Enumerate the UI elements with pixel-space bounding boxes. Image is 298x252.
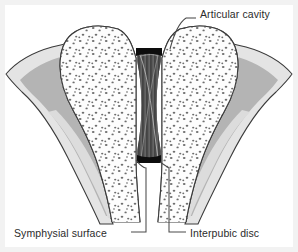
symphysis-illustration bbox=[0, 0, 298, 252]
anatomical-figure: Articular cavity Symphysial surface Inte… bbox=[0, 0, 298, 252]
label-articular-cavity: Articular cavity bbox=[200, 9, 270, 20]
label-symphysial-surface: Symphysial surface bbox=[14, 228, 107, 239]
label-interpubic-disc: Interpubic disc bbox=[190, 228, 259, 239]
